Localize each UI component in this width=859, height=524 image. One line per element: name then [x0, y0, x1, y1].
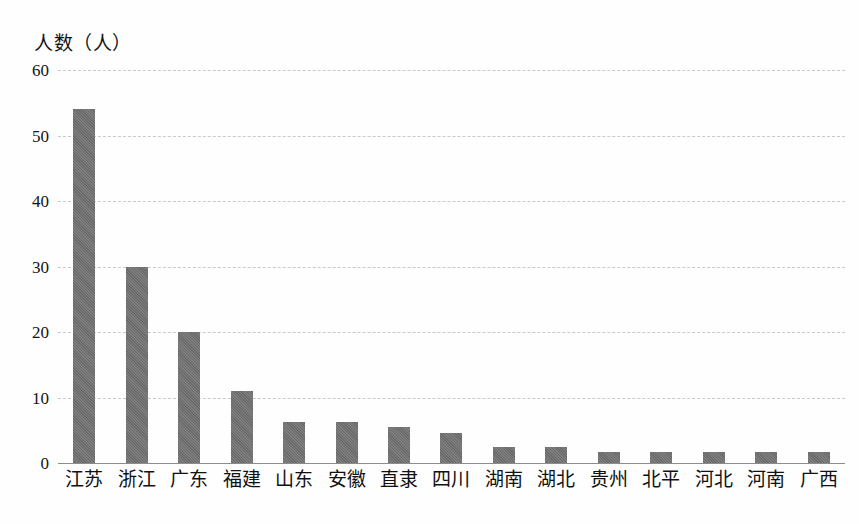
- x-axis-tick-label: 福建: [223, 470, 261, 489]
- bar-group: 安徽: [320, 70, 372, 463]
- bar-group: 贵州: [583, 70, 635, 463]
- x-axis-tick-label: 江苏: [65, 470, 103, 489]
- bar: [598, 452, 620, 463]
- bar-group: 浙江: [110, 70, 162, 463]
- bar: [178, 332, 200, 463]
- x-axis-tick-label: 河南: [747, 470, 785, 489]
- x-axis-baseline: 0: [58, 463, 845, 464]
- bar: [73, 109, 95, 463]
- x-axis-tick-label: 湖南: [485, 470, 523, 489]
- y-axis-tick-label: 60: [32, 62, 49, 79]
- bar-group: 河南: [740, 70, 792, 463]
- bar-group: 直隶: [373, 70, 425, 463]
- x-axis-tick-label: 四川: [432, 470, 470, 489]
- bar: [231, 391, 253, 463]
- x-axis-tick-label: 山东: [275, 470, 313, 489]
- bar-group: 山东: [268, 70, 320, 463]
- x-axis-tick-label: 北平: [642, 470, 680, 489]
- x-axis-tick-label: 河北: [695, 470, 733, 489]
- bar: [440, 433, 462, 463]
- bar: [545, 447, 567, 463]
- bar-group: 北平: [635, 70, 687, 463]
- y-axis-tick-label: 30: [32, 259, 49, 276]
- bars: 江苏浙江广东福建山东安徽直隶四川湖南湖北贵州北平河北河南广西: [58, 70, 845, 463]
- bar-group: 江苏: [58, 70, 110, 463]
- plot-area: 6050403020100 江苏浙江广东福建山东安徽直隶四川湖南湖北贵州北平河北…: [58, 70, 845, 463]
- y-axis-tick-label: 0: [41, 455, 50, 472]
- bar-group: 湖北: [530, 70, 582, 463]
- bar: [703, 452, 725, 463]
- bar: [650, 452, 672, 463]
- x-axis-tick-label: 贵州: [590, 470, 628, 489]
- bar: [755, 452, 777, 463]
- x-axis-tick-label: 浙江: [118, 470, 156, 489]
- bar: [283, 422, 305, 463]
- bar: [126, 267, 148, 464]
- x-axis-tick-label: 安徽: [328, 470, 366, 489]
- y-axis-title: 人数（人）: [34, 28, 132, 55]
- bar: [388, 427, 410, 463]
- bar-group: 广西: [793, 70, 845, 463]
- x-axis-tick-label: 广西: [800, 470, 838, 489]
- x-axis-tick-label: 湖北: [537, 470, 575, 489]
- bar-group: 福建: [215, 70, 267, 463]
- bar-group: 湖南: [478, 70, 530, 463]
- bar-chart: 人数（人） 6050403020100 江苏浙江广东福建山东安徽直隶四川湖南湖北…: [0, 0, 859, 524]
- x-axis-tick-label: 直隶: [380, 470, 418, 489]
- bar: [493, 447, 515, 463]
- y-axis-tick-label: 50: [32, 128, 49, 145]
- bar-group: 广东: [163, 70, 215, 463]
- bar: [808, 452, 830, 463]
- bar: [336, 422, 358, 463]
- x-axis-tick-label: 广东: [170, 470, 208, 489]
- y-axis-tick-label: 40: [32, 193, 49, 210]
- bar-group: 河北: [688, 70, 740, 463]
- bar-group: 四川: [425, 70, 477, 463]
- y-axis-tick-label: 10: [32, 390, 49, 407]
- y-axis-tick-label: 20: [32, 324, 49, 341]
